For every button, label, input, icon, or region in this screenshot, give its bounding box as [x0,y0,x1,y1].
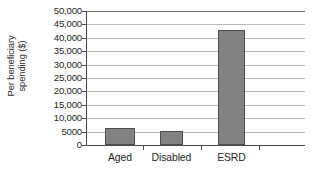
y-tick-label-50000: 50,000 [28,6,82,16]
y-tick-label-0: 0 [28,140,82,150]
y-tick-label-15000: 15,000 [28,100,82,110]
x-tick-label-aged: Aged [108,151,132,164]
x-tick-label-esrd: ESRD [217,151,245,164]
y-tick-label-25000: 25,000 [28,73,82,83]
bar-esrd[interactable] [218,30,245,145]
x-tick-label-disabled: Disabled [152,151,192,164]
y-tick-label-5000: 5000 [28,127,82,137]
y-tick-label-20000: 20,000 [28,86,82,96]
bars-layer [86,11,305,145]
y-axis-tick-labels: 50,00045,00040,00035,00030,00025,00020,0… [28,11,82,145]
x-tick-mark-1 [201,146,202,150]
bar-aged[interactable] [105,128,135,145]
y-tick-label-35000: 35,000 [28,46,82,56]
y-axis-title-line-1: Per beneficiary [5,0,16,133]
x-tick-mark-0 [143,146,144,150]
y-tick-label-40000: 40,000 [28,33,82,43]
y-tick-label-30000: 30,000 [28,60,82,70]
bar-disabled[interactable] [160,131,183,145]
y-tick-label-10000: 10,000 [28,113,82,123]
y-tick-label-45000: 45,000 [28,19,82,29]
bar-chart-figure: Per beneficiary spending ($) 50,00045,00… [0,0,317,172]
y-axis-title-line-2: spending ($) [16,0,27,133]
x-axis-tick-labels: AgedDisabledESRD [86,151,305,169]
x-axis-line [86,145,305,146]
x-tick-mark-2 [259,146,260,150]
